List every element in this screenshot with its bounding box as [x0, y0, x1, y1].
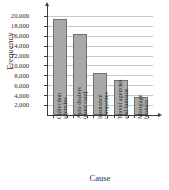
y-tick-label: 12,000	[0, 52, 29, 59]
y-tick-label: 10,000	[0, 62, 29, 69]
y-tick-label: 4,000	[0, 92, 29, 99]
y-tick-label: 14,000	[0, 42, 29, 49]
x-tick-label: Insurancecompanies	[97, 92, 110, 119]
y-tick-label: 18,000	[0, 22, 29, 29]
x-tick-mark	[53, 115, 54, 118]
x-tick-label: Auto dealers(used cars)	[76, 87, 89, 119]
y-tick-label: 20,000	[0, 12, 29, 19]
x-axis-title: Cause	[47, 173, 153, 183]
y-axis-arrow	[45, 2, 49, 6]
x-tick-mark	[114, 115, 115, 118]
x-tick-mark	[134, 115, 135, 118]
x-tick-label: Collectionagencies	[56, 93, 69, 119]
x-tick-label: Travel agenciesand bureaus	[117, 80, 130, 119]
x-tick-mark	[93, 115, 94, 118]
y-tick-label: 16,000	[0, 32, 29, 39]
y-tick-label: 8,000	[0, 72, 29, 79]
bar-chart: Frequency 2,0004,0006,0008,00010,00012,0…	[0, 0, 169, 190]
y-tick-label: 2,000	[0, 101, 29, 108]
y-tick-label: 6,000	[0, 82, 29, 89]
x-tick-label: Mortgagebrokers	[137, 95, 150, 119]
x-axis-arrow	[158, 113, 162, 117]
